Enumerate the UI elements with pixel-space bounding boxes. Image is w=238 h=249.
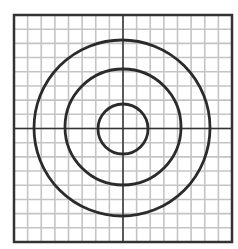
concentric-circles-diagram xyxy=(0,0,238,249)
